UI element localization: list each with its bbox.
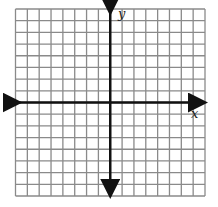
x-axis-label: x	[191, 107, 198, 120]
y-axis-label: y	[118, 7, 125, 20]
coordinate-plane	[0, 0, 218, 207]
